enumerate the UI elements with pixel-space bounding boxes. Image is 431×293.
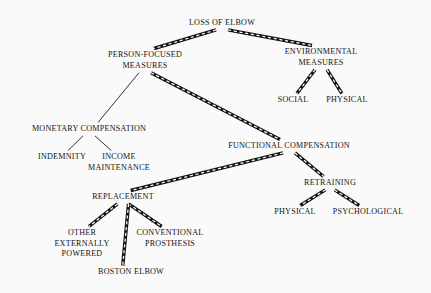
edge-replacement-to-boston-elbow bbox=[123, 204, 129, 266]
node-psychological: PSYCHOLOGICAL bbox=[333, 207, 404, 217]
node-physical-env: PHYSICAL bbox=[326, 95, 368, 105]
node-income-maintenance: INCOME MAINTENANCE bbox=[88, 152, 150, 173]
node-indemnity: INDEMNITY bbox=[38, 152, 86, 162]
edge-monetary-compensation-to-indemnity bbox=[68, 136, 83, 151]
node-loss-of-elbow: LOSS OF ELBOW bbox=[189, 18, 255, 28]
edge-retraining-to-physical-retrain bbox=[300, 190, 325, 206]
edge-functional-compensation-to-retraining bbox=[295, 153, 324, 177]
node-boston-elbow: BOSTON ELBOW bbox=[98, 267, 164, 277]
node-physical-retrain: PHYSICAL bbox=[274, 207, 316, 217]
node-person-focused-measures: PERSON-FOCUSED MEASURES bbox=[108, 50, 182, 71]
edge-retraining-to-psychological bbox=[335, 190, 359, 206]
edge-loss-of-elbow-to-environmental-measures bbox=[228, 30, 312, 46]
node-conventional-prosthesis: CONVENTIONAL PROSTHESIS bbox=[137, 228, 204, 249]
edge-person-focused-measures-to-functional-compensation bbox=[151, 73, 280, 140]
node-monetary-compensation: MONETARY COMPENSATION bbox=[32, 124, 146, 134]
edge-environmental-measures-to-social bbox=[297, 70, 315, 94]
edge-functional-compensation-to-replacement bbox=[131, 153, 283, 191]
node-replacement: REPLACEMENT bbox=[92, 192, 154, 202]
node-other-externally-powered: OTHER EXTERNALLY POWERED bbox=[54, 228, 109, 260]
node-environmental-measures: ENVIRONMENTAL MEASURES bbox=[285, 47, 358, 68]
edge-replacement-to-other-externally-powered bbox=[89, 204, 118, 227]
edge-monetary-compensation-to-income-maintenance bbox=[95, 136, 111, 151]
edge-environmental-measures-to-physical-env bbox=[327, 70, 342, 94]
edge-replacement-to-conventional-prosthesis bbox=[129, 204, 162, 227]
node-retraining: RETRAINING bbox=[304, 178, 356, 188]
hierarchy-diagram: LOSS OF ELBOWPERSON-FOCUSED MEASURESENVI… bbox=[0, 0, 431, 293]
node-functional-compensation: FUNCTIONAL COMPENSATION bbox=[228, 141, 350, 151]
node-social: SOCIAL bbox=[278, 95, 309, 105]
edge-loss-of-elbow-to-person-focused-measures bbox=[154, 30, 216, 49]
edge-person-focused-measures-to-monetary-compensation bbox=[98, 73, 139, 123]
